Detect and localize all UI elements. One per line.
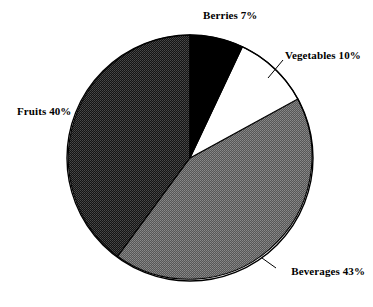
pie-label-berries: Berries 7% bbox=[203, 9, 257, 22]
leader-line-beverages bbox=[262, 258, 276, 268]
pie-label-vegetables: Vegetables 10% bbox=[285, 49, 361, 62]
pie-chart-canvas bbox=[0, 0, 373, 307]
pie-label-beverages: Beverages 43% bbox=[291, 265, 365, 278]
pie-chart-figure: Berries 7% Vegetables 10% Fruits 40% Bev… bbox=[0, 0, 373, 307]
pie-label-fruits: Fruits 40% bbox=[17, 105, 71, 118]
